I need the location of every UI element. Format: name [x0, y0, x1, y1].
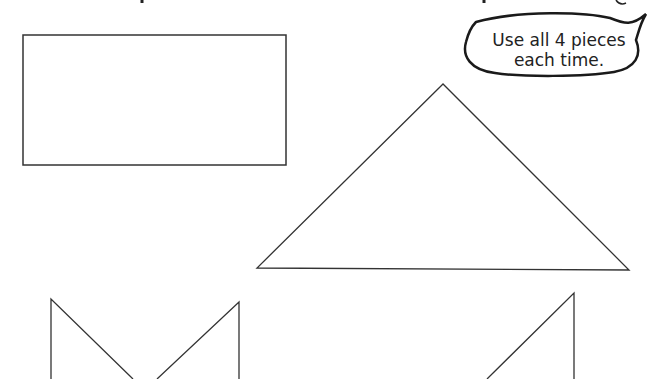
- bubble-line-2: each time.: [470, 50, 648, 70]
- worksheet-page: Use all 4 pieces each time.: [0, 0, 653, 379]
- bubble-line-1: Use all 4 pieces: [470, 30, 648, 50]
- rectangle-piece: [23, 35, 286, 165]
- notched-piece-right: [157, 302, 239, 379]
- speech-bubble-text: Use all 4 pieces each time.: [470, 30, 648, 70]
- clipped-heading: [142, 0, 626, 4]
- notched-piece: [51, 299, 133, 379]
- right-triangle-piece: [487, 293, 574, 379]
- large-triangle-piece: [257, 84, 629, 270]
